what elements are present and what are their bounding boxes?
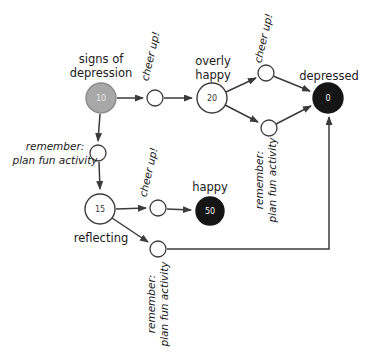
label-happy: happy [192,180,228,194]
label-signs-of-depression-line1: signs of [79,52,124,66]
transition-state-c [258,65,274,81]
edge-label-remember-bottom: remember: plan fun activity [145,261,170,348]
label-overly-happy-line2: happy [195,68,231,82]
edge-overly-happy-to-transition-d [225,105,258,122]
edge-label-cheer-up-top-left: cheer up! [139,30,162,82]
edge-transition-e-to-happy [167,209,191,210]
state-diagram: 10 20 0 15 50 signs of depression overly… [0,0,366,353]
edge-transition-b-to-reflecting [99,162,100,189]
diagram-canvas: 10 20 0 15 50 signs of depression overly… [0,0,366,353]
value-signs-of-depression: 10 [96,94,106,103]
edge-signs-to-transition-b [98,114,100,141]
edge-label-remember-middle-line2: plan fun activity [266,137,278,224]
edge-label-remember-left: remember: plan fun activity [11,140,98,166]
edge-label-remember-bottom-line1: remember: [145,275,157,334]
edge-label-cheer-up-top-right: cheer up! [252,12,275,64]
transition-state-d [261,120,277,136]
label-overly-happy-line1: overly [195,54,231,68]
edge-label-remember-middle: remember: plan fun activity [253,137,278,224]
edge-label-remember-left-line1: remember: [26,140,85,152]
edge-label-remember-left-line2: plan fun activity [11,154,98,166]
value-happy: 50 [205,207,215,216]
edge-label-cheer-up-bottom: cheer up! [137,146,160,198]
value-reflecting: 15 [95,205,105,214]
transition-state-a [147,90,163,106]
edge-reflecting-to-transition-e [116,208,146,209]
label-depressed: depressed [299,69,359,83]
edge-transition-d-to-depressed [276,106,311,124]
value-depressed: 0 [325,94,330,103]
edge-label-remember-middle-line1: remember: [253,151,265,210]
value-overly-happy: 20 [207,94,217,103]
label-reflecting: reflecting [74,231,129,245]
transition-state-e [150,200,166,216]
transition-state-f [150,241,166,257]
label-signs-of-depression-line2: depression [70,66,133,80]
edge-label-remember-bottom-line2: plan fun activity [158,261,170,348]
